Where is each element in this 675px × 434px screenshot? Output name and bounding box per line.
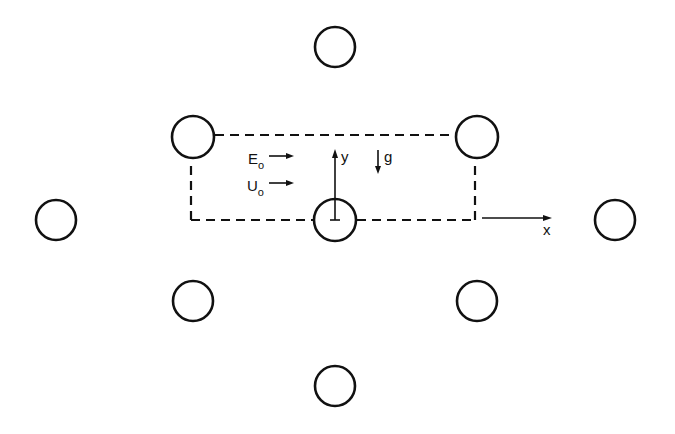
- cylinder-bottom: [315, 366, 355, 406]
- cylinder-top: [315, 27, 355, 67]
- gravity-label: g: [384, 148, 392, 165]
- cylinder-upper-left: [172, 116, 214, 158]
- flow-velocity-label: Uo: [247, 177, 264, 198]
- flow-velocity-arrow: [269, 180, 294, 186]
- lattice-diagram: y x g Eo Uo: [0, 0, 675, 434]
- x-axis-arrow: [482, 215, 552, 221]
- x-axis-label: x: [543, 221, 551, 238]
- cylinder-upper-right: [456, 116, 498, 158]
- cylinder-lower-right: [457, 281, 497, 321]
- cylinder-right: [595, 200, 635, 240]
- electric-field-arrow: [269, 153, 294, 159]
- cylinder-left: [36, 200, 76, 240]
- electric-field-label: Eo: [248, 150, 264, 171]
- y-axis-label: y: [341, 148, 349, 165]
- cylinder-lower-left: [173, 281, 213, 321]
- gravity-arrow: [375, 150, 381, 174]
